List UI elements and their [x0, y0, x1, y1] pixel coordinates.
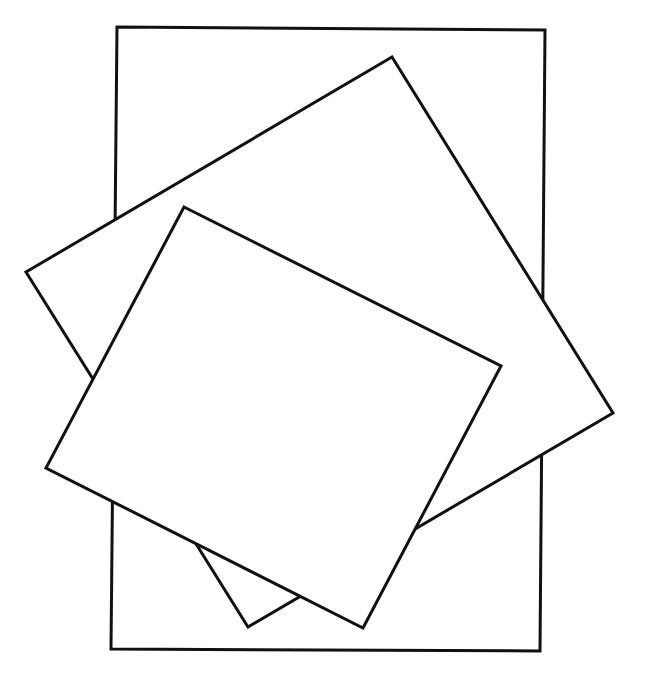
diagram-canvas [0, 0, 646, 678]
